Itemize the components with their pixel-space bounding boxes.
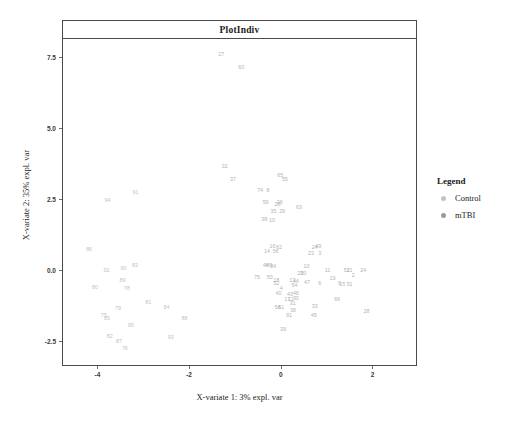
x-axis-title: X-variate 1: 3% expl. var (62, 392, 417, 402)
y-axis-tick-label: 5.0 (47, 125, 56, 132)
legend-item-mtbi[interactable]: mTBI (441, 210, 513, 220)
data-point-label: 32 (222, 164, 228, 169)
data-point-label: 14 (264, 249, 270, 254)
x-axis-tick (372, 366, 373, 369)
y-axis-tick (59, 199, 62, 200)
y-axis-tick-label: 7.5 (47, 54, 56, 61)
data-point-label: 78 (124, 287, 130, 292)
x-axis-tick-label: -2 (186, 371, 192, 378)
y-axis-tick (59, 341, 62, 342)
data-point-label: 88 (181, 316, 187, 321)
data-point-label: 56 (273, 250, 279, 255)
data-point-label: 91 (286, 313, 292, 318)
y-axis-tick (59, 270, 62, 271)
data-point-label: 94 (104, 198, 110, 203)
data-point-label: 52 (273, 282, 279, 287)
data-point-label: 81 (145, 301, 151, 306)
y-axis-title: X-variate 2: 35% expl. var (21, 95, 31, 295)
data-point-label: 35 (270, 209, 276, 214)
x-axis-tick-label: 2 (371, 371, 375, 378)
data-point-label: 24 (360, 268, 366, 273)
data-point-label: 91 (132, 191, 138, 196)
plot-panel: PlotIndiv 919486839092898078818479758588… (62, 20, 417, 366)
data-point-label: 54 (292, 283, 298, 288)
data-point-label: 6 (318, 281, 321, 286)
data-point-label: 23 (308, 251, 314, 256)
data-point-label: 10 (269, 218, 275, 223)
x-axis-tick (281, 366, 282, 369)
legend-title: Legend (437, 176, 513, 186)
y-axis-tick-label: 2.5 (47, 196, 56, 203)
data-point-label: 37 (230, 177, 236, 182)
y-axis-tick-label: -2.5 (45, 337, 56, 344)
data-point-label: 20 (300, 271, 306, 276)
data-point-label: 89 (120, 278, 126, 283)
data-point-label: 45 (311, 313, 317, 318)
data-point-label: 8 (266, 188, 269, 193)
legend-dot-icon (441, 213, 446, 218)
legend: Legend ControlmTBI (437, 176, 513, 227)
page-title: PlotIndiv (220, 25, 260, 35)
data-point-label: 95 (128, 323, 134, 328)
data-point-label: 19 (330, 277, 336, 282)
legend-item-control[interactable]: Control (441, 193, 513, 203)
data-point-label: 59 (263, 201, 269, 206)
data-point-label: 28 (275, 202, 281, 207)
data-point-label: 29 (279, 209, 285, 214)
data-point-label: 50 (267, 275, 273, 280)
data-point-label: 60 (238, 65, 244, 70)
y-axis-tick-label: 0.0 (47, 267, 56, 274)
data-point-label: 93 (168, 335, 174, 340)
data-point-label: 33 (312, 305, 318, 310)
data-point-label: 1 (349, 282, 352, 287)
data-point-label: 39 (280, 327, 286, 332)
data-point-label: 27 (218, 52, 224, 57)
data-point-label: 85 (104, 316, 110, 321)
legend-item-label: Control (455, 193, 481, 203)
legend-dot-icon (441, 196, 446, 201)
data-point-label: 63 (296, 206, 302, 211)
chart-page: PlotIndiv 919486839092898078818479758588… (0, 0, 515, 422)
x-axis-tick (189, 366, 190, 369)
data-point-label: 86 (86, 247, 92, 252)
data-point-label: 80 (92, 285, 98, 290)
data-point-label: 10 (303, 264, 309, 269)
data-point-label: 92 (104, 268, 110, 273)
data-point-label: 40 (275, 292, 281, 297)
data-point-label: 47 (304, 280, 310, 285)
data-point-label: 66 (334, 298, 340, 303)
data-point-label: 55 (282, 178, 288, 183)
data-point-label: 15 (339, 282, 345, 287)
data-point-label: 74 (257, 188, 263, 193)
data-point-label: 11 (325, 269, 331, 274)
y-axis-tick (59, 128, 62, 129)
data-point-label: 61 (278, 306, 284, 311)
data-point-label: 28 (363, 309, 369, 314)
data-point-label: 82 (107, 335, 113, 340)
plot-area: 9194868390928980788184797585889582938776… (63, 39, 416, 365)
data-point-label: 34 (270, 264, 276, 269)
data-point-label: 83 (132, 264, 138, 269)
data-point-label: 76 (122, 346, 128, 351)
data-point-label: 90 (121, 267, 127, 272)
data-point-label: 75 (254, 275, 260, 280)
x-axis-tick-label: 0 (279, 371, 283, 378)
data-point-label: 79 (115, 306, 121, 311)
data-point-label: 3 (318, 251, 321, 256)
x-axis-tick (97, 366, 98, 369)
legend-item-label: mTBI (455, 210, 475, 220)
x-axis-tick-label: -4 (94, 371, 100, 378)
data-point-label: 38 (261, 218, 267, 223)
y-axis-tick (59, 57, 62, 58)
data-point-label: 84 (164, 305, 170, 310)
plot-title-strip: PlotIndiv (63, 21, 416, 39)
data-point-label: 2 (352, 274, 355, 279)
legend-items: ControlmTBI (437, 193, 513, 220)
